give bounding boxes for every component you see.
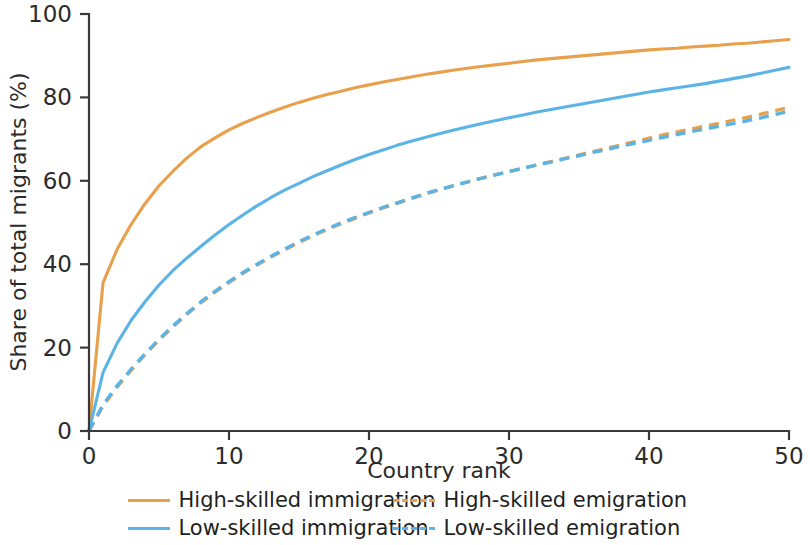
series-group: [89, 39, 789, 431]
legend-row: Low-skilled immigrationLow-skilled emigr…: [128, 515, 683, 541]
series-line-low-skilled-immigration: [89, 67, 789, 431]
legend-swatch-solid: [128, 527, 170, 530]
y-tick-label: 80: [43, 84, 72, 110]
legend-entry-high-skilled-immigration[interactable]: High-skilled immigration: [128, 487, 393, 513]
legend-row: High-skilled immigrationHigh-skilled emi…: [128, 487, 683, 513]
legend-label: Low-skilled emigration: [444, 515, 681, 541]
y-tick-label: 20: [43, 335, 72, 361]
chart-legend: High-skilled immigrationHigh-skilled emi…: [0, 487, 810, 541]
legend-swatch-solid: [128, 499, 170, 502]
legend-entry-low-skilled-immigration[interactable]: Low-skilled immigration: [128, 515, 393, 541]
x-tick-label: 0: [82, 443, 97, 469]
legend-entry-low-skilled-emigration[interactable]: Low-skilled emigration: [393, 515, 683, 541]
axes-group: [80, 14, 789, 440]
y-axis-title: Share of total migrants (%): [6, 72, 31, 371]
y-tick-label: 60: [43, 168, 72, 194]
series-line-high-skilled-emigration: [89, 107, 789, 431]
line-chart-canvas: 02040608010001020304050 Country rank Sha…: [0, 0, 810, 545]
x-tick-label: 10: [214, 443, 243, 469]
y-tick-label: 0: [57, 418, 72, 444]
x-axis-title: Country rank: [367, 458, 511, 483]
legend-label: Low-skilled immigration: [179, 515, 429, 541]
legend-entry-high-skilled-emigration[interactable]: High-skilled emigration: [393, 487, 683, 513]
legend-label: High-skilled emigration: [444, 487, 688, 513]
series-line-low-skilled-emigration: [89, 111, 789, 431]
legend-swatch-dashed: [393, 527, 435, 530]
series-line-high-skilled-immigration: [89, 39, 789, 431]
x-tick-label: 50: [774, 443, 803, 469]
legend-swatch-dashed: [393, 499, 435, 502]
y-tick-label: 40: [43, 251, 72, 277]
tick-label-group: 02040608010001020304050: [28, 1, 804, 469]
chart-figure: 02040608010001020304050 Country rank Sha…: [0, 0, 810, 545]
y-tick-label: 100: [28, 1, 72, 27]
x-tick-label: 40: [634, 443, 663, 469]
